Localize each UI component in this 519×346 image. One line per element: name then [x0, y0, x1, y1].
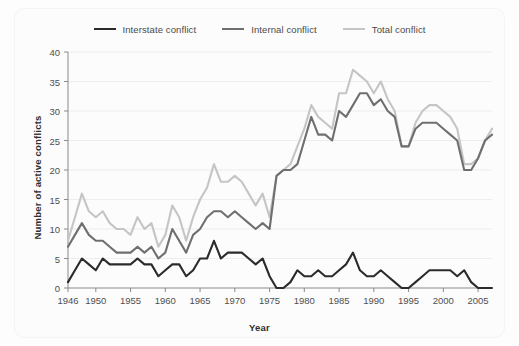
chart-plot-area: 0510152025303540194619501955196019651970…: [0, 0, 519, 346]
x-tick-label: 1980: [294, 295, 315, 306]
x-tick-label: 1970: [224, 295, 245, 306]
x-tick-label: 1950: [85, 295, 106, 306]
x-tick-label: 1990: [363, 295, 384, 306]
x-tick-label: 1965: [189, 295, 210, 306]
y-tick-label: 40: [30, 47, 60, 58]
series-line-interstate-conflict: [68, 241, 492, 288]
x-axis-title: Year: [0, 322, 519, 333]
x-tick-label: 1995: [398, 295, 419, 306]
y-tick-label: 5: [30, 253, 60, 264]
x-tick-label: 1955: [120, 295, 141, 306]
y-axis-title: Number of active conflicts: [32, 103, 43, 253]
x-tick-label: 2005: [468, 295, 489, 306]
y-tick-label: 35: [30, 76, 60, 87]
x-tick-label: 1985: [329, 295, 350, 306]
x-tick-label: 1946: [57, 295, 78, 306]
x-tick-label: 1975: [259, 295, 280, 306]
x-tick-label: 2000: [433, 295, 454, 306]
x-tick-label: 1960: [155, 295, 176, 306]
series-line-total-conflict: [68, 70, 492, 247]
chart-figure: Interstate conflict Internal conflict To…: [0, 0, 519, 346]
y-tick-label: 0: [30, 283, 60, 294]
